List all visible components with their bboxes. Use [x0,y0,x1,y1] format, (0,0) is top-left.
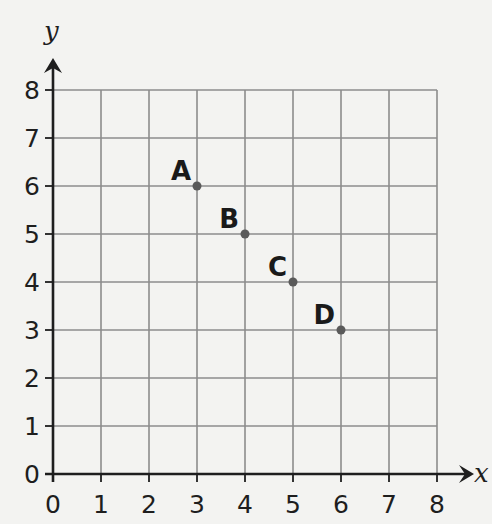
x-tick-label: 3 [189,490,205,519]
x-tick-label: 5 [285,490,301,519]
point-label: C [268,252,287,282]
y-tick-label: 1 [24,412,40,441]
x-axis-label: x [474,458,489,488]
point-marker-icon [241,230,250,239]
y-axis-label: y [43,16,59,46]
x-tick-label: 1 [93,490,109,519]
y-tick-label: 4 [24,268,40,297]
x-tick-label: 4 [237,490,253,519]
y-tick-labels: 012345678 [24,76,40,489]
y-tick-label: 5 [24,220,40,249]
y-tick-label: 6 [24,172,40,201]
y-tick-label: 7 [24,124,40,153]
point-marker-icon [337,326,346,335]
y-tick-label: 3 [24,316,40,345]
point-marker-icon [193,182,202,191]
x-tick-label: 0 [45,490,61,519]
x-tick-label: 8 [429,490,445,519]
x-tick-labels: 012345678 [45,490,445,519]
point-label: A [171,156,191,186]
grid-lines [53,90,437,474]
y-tick-label: 0 [24,460,40,489]
y-tick-label: 2 [24,364,40,393]
coordinate-plane: 012345678 012345678 x y ABCD [0,0,492,524]
tick-marks [45,90,437,482]
axes [44,58,474,483]
x-tick-label: 7 [381,490,397,519]
point-label: D [313,300,335,330]
point-marker-icon [289,278,298,287]
point-label: B [219,204,239,234]
y-tick-label: 8 [24,76,40,105]
x-tick-label: 2 [141,490,157,519]
x-tick-label: 6 [333,490,349,519]
